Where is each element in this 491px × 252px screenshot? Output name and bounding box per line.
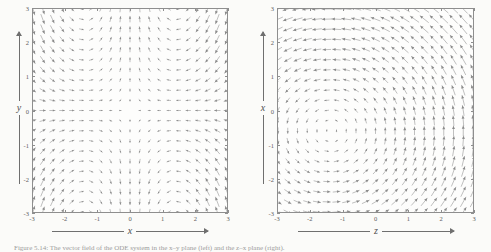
x-axis-label: x	[127, 226, 133, 236]
x-tick-label: 2	[194, 215, 197, 222]
x-tick-top	[65, 8, 66, 11]
figure-caption: Figure 5.14: The vector field of the ODE…	[14, 244, 481, 252]
figure-container: -3-2-10123-3-2-10123 x y -3-2-10123-3-2-…	[0, 0, 491, 252]
x-tick-top	[163, 8, 164, 11]
zx-plane-panel: -3-2-10123-3-2-10123	[277, 8, 474, 213]
xy-plane-panel: -3-2-10123-3-2-10123	[32, 8, 228, 213]
x-tick	[441, 210, 442, 213]
x-tick-label: 1	[161, 215, 164, 222]
x-tick-label: -2	[307, 215, 312, 222]
y-tick-right	[225, 111, 228, 112]
x-tick-label: -2	[62, 215, 67, 222]
y-tick-right	[471, 111, 474, 112]
x-tick	[130, 210, 131, 213]
x-tick	[163, 210, 164, 213]
y-tick	[277, 42, 280, 43]
y-tick	[32, 76, 35, 77]
y-tick-right	[225, 145, 228, 146]
x-tick	[343, 210, 344, 213]
y-tick-label: -3	[263, 210, 274, 217]
y-tick-right	[225, 179, 228, 180]
y-tick	[32, 145, 35, 146]
x-tick-top	[310, 8, 311, 11]
x-tick-top	[408, 8, 409, 11]
y-tick-label: 3	[18, 5, 29, 12]
xy-plot-frame	[32, 8, 228, 213]
x-tick-label: 0	[374, 215, 377, 222]
x-tick-top	[376, 8, 377, 11]
arrow-bar-right	[382, 231, 454, 232]
x-tick-label: 3	[472, 215, 475, 222]
y-tick	[277, 111, 280, 112]
x-tick	[228, 210, 229, 213]
x-tick	[474, 210, 475, 213]
y-tick-right	[225, 42, 228, 43]
x-tick-label: -1	[340, 215, 345, 222]
x-tick	[97, 210, 98, 213]
y-tick-right	[471, 145, 474, 146]
z-axis-arrow-annotation: z	[298, 224, 454, 238]
x-tick-top	[474, 8, 475, 11]
x-tick-label: 3	[226, 215, 229, 222]
y-tick-label: -3	[18, 210, 29, 217]
x-tick	[408, 210, 409, 213]
y-tick-right	[225, 76, 228, 77]
arrow-bar-top	[19, 32, 20, 101]
x-tick-top	[228, 8, 229, 11]
y-tick-right	[225, 213, 228, 214]
arrow-bar-left	[298, 231, 370, 232]
arrow-bar-bottom	[19, 115, 20, 184]
x-tick	[376, 210, 377, 213]
x-tick-label: -1	[95, 215, 100, 222]
x-tick-top	[130, 8, 131, 11]
y-tick-right	[471, 179, 474, 180]
arrow-bar-top	[263, 32, 264, 101]
y-tick-right	[471, 213, 474, 214]
y-tick	[277, 213, 280, 214]
y-tick	[32, 8, 35, 9]
x-tick-top	[97, 8, 98, 11]
y-tick-right	[471, 8, 474, 9]
y-tick	[277, 145, 280, 146]
x-tick-label: -3	[29, 215, 34, 222]
y-axis-label: y	[17, 103, 21, 113]
z-axis-label: z	[373, 226, 379, 236]
x-tick-label: 2	[440, 215, 443, 222]
y-axis-arrow-annotation: y	[12, 32, 26, 184]
y-tick	[32, 42, 35, 43]
x-tick	[310, 210, 311, 213]
y-tick	[32, 111, 35, 112]
x-tick-label: 0	[128, 215, 131, 222]
x-tick-label: 1	[407, 215, 410, 222]
x-vertical-axis-arrow-annotation: x	[256, 32, 270, 184]
x-tick-top	[343, 8, 344, 11]
x-vertical-axis-label: x	[261, 103, 265, 113]
y-tick-right	[471, 76, 474, 77]
arrow-bar-right	[136, 231, 208, 232]
x-tick-label: -3	[274, 215, 279, 222]
x-tick	[65, 210, 66, 213]
y-tick	[32, 179, 35, 180]
arrow-bar-left	[52, 231, 124, 232]
x-tick-top	[195, 8, 196, 11]
arrow-bar-bottom	[263, 115, 264, 184]
x-axis-arrow-annotation: x	[52, 224, 208, 238]
y-tick-right	[471, 42, 474, 43]
y-tick-right	[225, 8, 228, 9]
x-tick	[195, 210, 196, 213]
y-tick	[32, 213, 35, 214]
y-tick-label: 3	[263, 5, 274, 12]
y-tick	[277, 8, 280, 9]
xy-vector-field	[33, 9, 227, 212]
y-tick	[277, 76, 280, 77]
y-tick	[277, 179, 280, 180]
zx-plot-frame	[277, 8, 474, 213]
zx-vector-field	[278, 9, 473, 212]
x-tick-top	[441, 8, 442, 11]
